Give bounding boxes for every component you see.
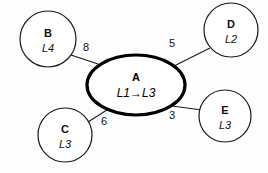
- node-b[interactable]: B L4: [20, 11, 76, 67]
- edge-a-d: [174, 48, 210, 66]
- node-d-label: D: [227, 18, 235, 30]
- node-c-label: C: [61, 123, 69, 135]
- node-e-circle: [199, 90, 251, 142]
- node-e-sublabel: L3: [219, 119, 232, 131]
- node-a-ellipse: [87, 55, 185, 115]
- node-a-center[interactable]: A L1→L3: [87, 55, 185, 115]
- edge-weight-a-e: 3: [169, 109, 175, 121]
- edge-a-e: [172, 106, 202, 110]
- node-d-sublabel: L2: [225, 33, 237, 45]
- node-b-label: B: [44, 27, 52, 39]
- node-c-sublabel: L3: [59, 138, 72, 150]
- node-d-circle: [204, 3, 258, 57]
- node-a-sublabel: L1→L3: [117, 86, 156, 100]
- node-e[interactable]: E L3: [199, 90, 251, 142]
- node-c[interactable]: C L3: [38, 108, 92, 162]
- node-c-circle: [38, 108, 92, 162]
- node-d[interactable]: D L2: [204, 3, 258, 57]
- node-b-circle: [20, 11, 76, 67]
- edge-b-a: [71, 55, 98, 64]
- edge-weight-a-d: 5: [169, 37, 175, 49]
- graph-svg: 8 5 6 3 B L4 D L2 C L3 E L3: [0, 0, 268, 173]
- diagram-canvas: 8 5 6 3 B L4 D L2 C L3 E L3: [0, 0, 268, 173]
- edge-weight-b-a: 8: [83, 41, 89, 53]
- node-b-sublabel: L4: [42, 42, 54, 54]
- edge-weight-c-a: 6: [101, 115, 107, 127]
- node-a-label: A: [132, 71, 140, 83]
- node-e-label: E: [221, 104, 228, 116]
